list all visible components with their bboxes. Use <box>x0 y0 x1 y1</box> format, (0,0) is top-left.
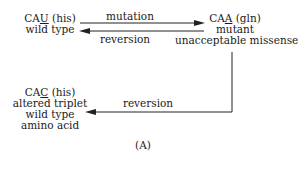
edge-label-reversion-2: reversion <box>118 98 178 109</box>
edge-label-mutation: mutation <box>100 11 160 22</box>
figure-caption: (A) <box>128 140 158 151</box>
node-mutant: CAA (gln) mutant unacceptable missense <box>175 13 295 46</box>
node-desc: wild type <box>18 24 82 35</box>
node-altered-triplet: CAC (his) altered triplet wild type amin… <box>10 87 90 131</box>
node-desc: unacceptable missense <box>175 35 295 46</box>
node-wild-type: CAU (his) wild type <box>18 13 82 35</box>
edge-label-reversion: reversion <box>95 34 155 45</box>
node-desc: amino acid <box>10 120 90 131</box>
